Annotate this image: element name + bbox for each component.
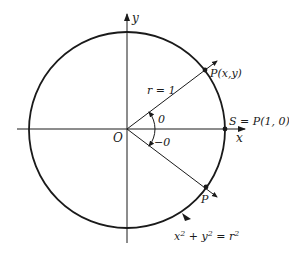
circle-direction-arrow [182, 213, 191, 221]
point-P-label: P(x,y) [209, 67, 242, 80]
angle-arc-positive [149, 112, 155, 129]
radius-label: r = 1 [147, 84, 175, 97]
y-axis-label: y [131, 11, 139, 25]
point-P-reflect-label: P [200, 193, 209, 206]
circle-equation: x2 + y2 = r2 [174, 229, 239, 243]
ray-to-P-reflect [127, 129, 217, 197]
point-P [203, 68, 208, 73]
point-P-reflect [204, 185, 209, 190]
angle-positive-label: 0 [158, 113, 165, 126]
origin-label: O [113, 131, 123, 145]
angle-negative-label: −0 [154, 136, 170, 149]
point-S-label: S = P(1, 0) [229, 115, 289, 128]
point-S [223, 127, 228, 132]
unit-circle-diagram: y x O r = 1 P(x,y) S = P(1, 0) P 0 −0 x2… [0, 0, 289, 254]
x-axis-label: x [236, 131, 243, 145]
